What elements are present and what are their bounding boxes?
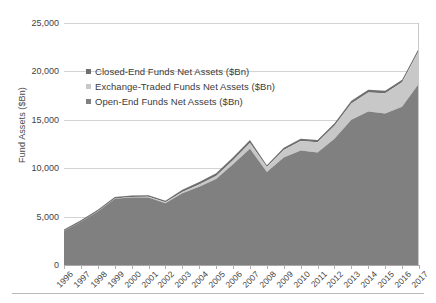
x-tick-label: 2007 (240, 269, 261, 290)
x-tick-label: 2014 (359, 269, 380, 290)
plot-area: 05,00010,00015,00020,00025,000 (64, 23, 419, 265)
x-tick-label: 2017 (409, 269, 430, 290)
x-tick-label: 2004 (190, 269, 211, 290)
stacked-area-series (64, 23, 419, 265)
legend-item: Exchange-Traded Funds Net Assets ($Bn) (86, 79, 275, 94)
x-tick-label: 2008 (257, 269, 278, 290)
x-tick-label: 2011 (308, 269, 328, 289)
y-tick-label: 15,000 (31, 115, 59, 125)
x-tick-label: 2010 (291, 269, 312, 290)
chart-legend: Closed-End Funds Net Assets ($Bn)Exchang… (86, 64, 275, 109)
x-tick-label: 2013 (342, 269, 363, 290)
legend-swatch-icon (86, 84, 91, 89)
legend-item: Open-End Funds Net Assets ($Bn) (86, 94, 275, 109)
x-tick-label: 2000 (122, 269, 143, 290)
x-tick-label: 2003 (173, 269, 194, 290)
legend-item: Closed-End Funds Net Assets ($Bn) (86, 64, 275, 79)
y-tick-label: 0 (54, 260, 59, 270)
legend-swatch-icon (86, 99, 91, 104)
x-tick-label: 1998 (88, 269, 109, 290)
x-tick-label: 2015 (376, 269, 397, 290)
legend-label: Exchange-Traded Funds Net Assets ($Bn) (95, 81, 275, 92)
axis-right-edge (418, 23, 419, 265)
legend-label: Closed-End Funds Net Assets ($Bn) (95, 66, 249, 77)
x-tick-label: 1996 (54, 269, 75, 290)
y-axis-title: Fund Assets ($Bn) (17, 65, 27, 185)
y-tick-label: 25,000 (31, 18, 59, 28)
legend-swatch-icon (86, 69, 91, 74)
x-tick-label: 2006 (223, 269, 244, 290)
x-tick-label: 2005 (206, 269, 227, 290)
x-tick-label: 1997 (71, 269, 92, 290)
x-tick-label: 2016 (392, 269, 413, 290)
y-tick-label: 10,000 (31, 163, 59, 173)
y-tick-label: 20,000 (31, 66, 59, 76)
x-tick-label: 2001 (139, 269, 160, 290)
x-tick-label: 2002 (156, 269, 177, 290)
x-tick-label: 2012 (325, 269, 346, 290)
y-tick-label: 5,000 (36, 212, 59, 222)
x-tick-label: 2009 (274, 269, 295, 290)
x-tick-mark (419, 265, 420, 269)
x-tick-label: 1999 (105, 269, 126, 290)
x-axis-labels: 1996199719981999200020012002200320042005… (64, 269, 419, 303)
fund-assets-stacked-area-chart: Fund Assets ($Bn) 05,00010,00015,00020,0… (0, 0, 436, 303)
bottom-divider (12, 293, 424, 294)
legend-label: Open-End Funds Net Assets ($Bn) (95, 96, 243, 107)
